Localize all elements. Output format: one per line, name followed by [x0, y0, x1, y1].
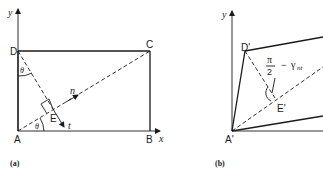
y-axis-label-a: y: [7, 7, 13, 18]
angle-two: 2: [267, 67, 272, 77]
point-e-prime-label: E': [277, 103, 286, 114]
point-d-label: D: [10, 46, 17, 57]
n-vector-arrow: [66, 95, 78, 102]
t-vector-label: t: [68, 120, 71, 131]
x-axis-label: x: [158, 133, 164, 144]
caption-b: (b): [215, 159, 225, 168]
point-a-label: A: [14, 134, 21, 145]
point-b-label: B: [146, 134, 153, 145]
theta-label-a: θ: [35, 122, 39, 131]
angle-pi: π: [267, 54, 272, 65]
edge-d-prime-c-prime: [245, 37, 323, 51]
angle-minus: −: [281, 60, 286, 70]
angle-gamma: γ: [290, 59, 296, 70]
angle-subscript: nt: [297, 64, 304, 72]
n-vector-label: n: [70, 85, 75, 96]
angle-arc-e-prime: [266, 87, 271, 101]
caption-a: (a): [10, 159, 20, 168]
point-e-label: E: [50, 113, 57, 124]
diagonal-a-prime-c-prime: [232, 67, 323, 131]
point-c-label: C: [146, 39, 153, 50]
panel-a: y x n t θ θ D C A B E (a): [7, 7, 164, 168]
edge-a-prime-d-prime: [232, 51, 245, 131]
panel-b: y π 2 − γ nt D' E' A' (b): [215, 9, 323, 168]
point-d-prime-label: D': [241, 42, 250, 53]
angle-arc-a: [40, 118, 44, 131]
right-angle-marker: [41, 99, 53, 113]
diagonal-ac: [18, 51, 150, 131]
strain-diagram: y x n t θ θ D C A B E (a) y: [0, 0, 323, 176]
theta-label-d: θ: [20, 66, 24, 75]
y-axis-label-b: y: [221, 9, 227, 20]
point-a-prime-label: A': [225, 134, 234, 145]
angle-leader-line: [272, 78, 275, 93]
edge-a-prime-b-prime: [232, 116, 323, 131]
